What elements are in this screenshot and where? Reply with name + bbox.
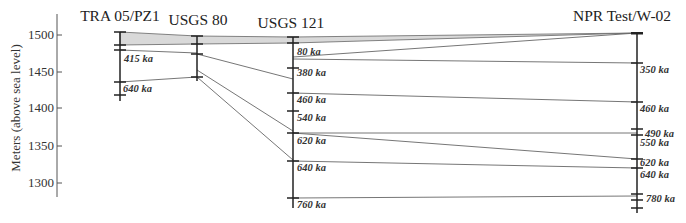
column-title-usgs80: USGS 80 (168, 11, 227, 28)
age-label: 640 ka (297, 162, 326, 173)
y-axis (57, 14, 62, 197)
age-label: 640 ka (123, 83, 152, 94)
age-label: 550 ka (640, 137, 669, 148)
age-label: 540 ka (297, 112, 326, 123)
age-label: 460 ka (639, 103, 669, 114)
age-label: 350 ka (639, 64, 669, 75)
age-label: 380 ka (296, 67, 326, 78)
ytick-1300: 1300 (28, 175, 54, 190)
column-npr-test-w-02 (631, 32, 643, 213)
age-label: 415 ka (123, 53, 153, 64)
age-label: 760 ka (297, 199, 326, 210)
age-label: 780 ka (646, 193, 675, 204)
age-label: 460 ka (296, 94, 326, 105)
y-axis-label: Meters (above sea level) (8, 44, 23, 171)
ytick-1400: 1400 (28, 100, 54, 115)
age-label: 640 ka (640, 169, 669, 180)
age-label: 620 ka (640, 157, 669, 168)
age-label: 620 ka (297, 135, 326, 146)
column-title-usgs121: USGS 121 (258, 14, 325, 31)
ytick-1450: 1450 (28, 64, 54, 79)
ytick-1500: 1500 (28, 27, 54, 42)
ytick-1350: 1350 (28, 138, 54, 153)
correlation-diagram: 1500 1450 1400 1350 1300 Meters (above s… (0, 0, 686, 223)
column-title-tra: TRA 05/PZ1 (80, 7, 160, 24)
column-title-npr: NPR Test/W-02 (573, 7, 671, 24)
age-label: 80 ka (297, 46, 321, 57)
